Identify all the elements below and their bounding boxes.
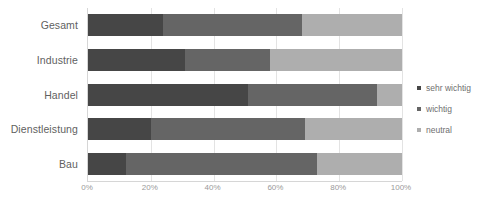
bar-segment-wichtig[interactable] [126, 153, 318, 175]
bar-row[interactable] [88, 153, 402, 175]
x-tick-label: 80% [330, 183, 346, 192]
bar-segment-sehr-wichtig[interactable] [88, 14, 163, 36]
legend-label: neutral [426, 125, 452, 135]
legend-item-sehr-wichtig[interactable]: sehr wichtig [417, 80, 489, 95]
bar-segment-sehr-wichtig[interactable] [88, 49, 185, 71]
bar-segment-neutral[interactable] [317, 153, 402, 175]
legend-item-neutral[interactable]: neutral [417, 122, 489, 137]
legend-label: wichtig [426, 104, 452, 114]
category-label-dienstleistung: Dienstleistung [11, 122, 78, 136]
category-label-handel: Handel [44, 88, 78, 102]
bar-segment-neutral[interactable] [302, 14, 402, 36]
bar-segment-wichtig[interactable] [163, 14, 301, 36]
bar-row[interactable] [88, 14, 402, 36]
x-tick-label: 20% [142, 183, 158, 192]
category-label-bau: Bau [59, 157, 78, 171]
legend-swatch-icon [417, 86, 421, 90]
legend-swatch-icon [417, 107, 421, 111]
x-tick-label: 0% [81, 183, 93, 192]
legend-swatch-icon [417, 128, 421, 132]
stacked-bar-chart: GesamtIndustrieHandelDienstleistungBau 0… [0, 0, 493, 204]
bar-segment-neutral[interactable] [270, 49, 402, 71]
bar-row[interactable] [88, 118, 402, 140]
chart-legend: sehr wichtigwichtigneutral [417, 80, 489, 143]
category-label-industrie: Industrie [37, 53, 78, 67]
x-tick-label: 60% [267, 183, 283, 192]
x-axis-tick-labels: 0%20%40%60%80%100% [87, 183, 401, 199]
bar-segment-wichtig[interactable] [151, 118, 305, 140]
bar-segment-sehr-wichtig[interactable] [88, 153, 126, 175]
x-tick-label: 40% [205, 183, 221, 192]
bar-segment-wichtig[interactable] [248, 84, 377, 106]
bar-segment-wichtig[interactable] [185, 49, 270, 71]
bar-segment-neutral[interactable] [377, 84, 402, 106]
gridline [402, 8, 403, 181]
bar-row[interactable] [88, 49, 402, 71]
plot-area [87, 8, 402, 182]
category-label-gesamt: Gesamt [41, 18, 78, 32]
x-tick-label: 100% [391, 183, 411, 192]
bar-segment-neutral[interactable] [305, 118, 402, 140]
bar-segment-sehr-wichtig[interactable] [88, 118, 151, 140]
category-axis-labels: GesamtIndustrieHandelDienstleistungBau [0, 8, 83, 181]
bar-segment-sehr-wichtig[interactable] [88, 84, 248, 106]
legend-item-wichtig[interactable]: wichtig [417, 101, 489, 116]
legend-label: sehr wichtig [426, 83, 471, 93]
bar-row[interactable] [88, 84, 402, 106]
